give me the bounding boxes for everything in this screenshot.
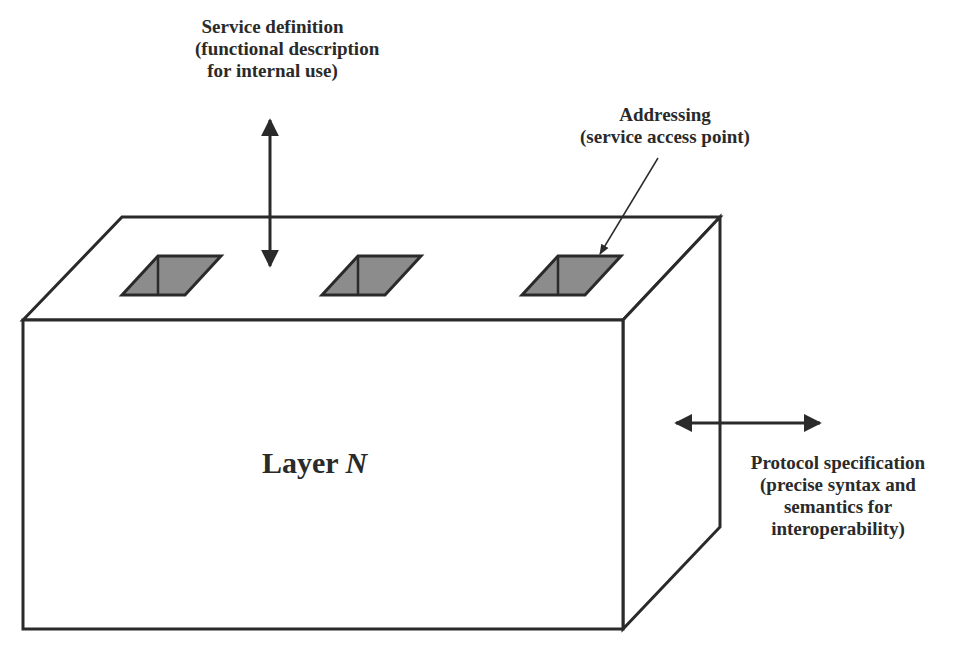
layer-label-variable: N	[346, 446, 368, 479]
service-definition-title: Service definition	[195, 16, 350, 38]
service-definition-line-2: (functional description	[195, 38, 350, 60]
layer-label: Layer N	[262, 446, 367, 480]
protocol-specification-label: Protocol specification (precise syntax a…	[738, 452, 938, 540]
protocol-specification-line-4: interoperability)	[738, 518, 938, 540]
protocol-specification-title: Protocol specification	[738, 452, 938, 474]
protocol-specification-line-3: semantics for	[738, 496, 938, 518]
service-definition-label: Service definition (functional descripti…	[195, 16, 350, 82]
layer-label-prefix: Layer	[262, 446, 346, 479]
addressing-title: Addressing	[580, 104, 750, 126]
addressing-line-2: (service access point)	[580, 126, 750, 148]
layer-box-diagram	[0, 0, 955, 656]
protocol-specification-line-2: (precise syntax and	[738, 474, 938, 496]
service-definition-line-3: for internal use)	[195, 60, 350, 82]
addressing-label: Addressing (service access point)	[580, 104, 750, 148]
